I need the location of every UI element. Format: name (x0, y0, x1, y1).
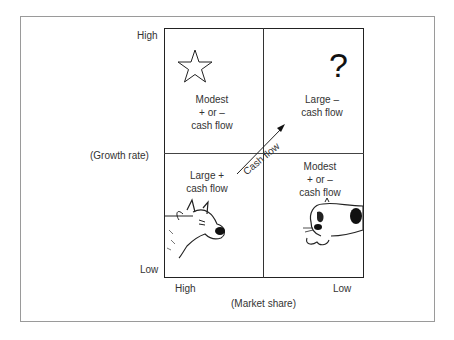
cash-flow-arrow-icon (0, 0, 454, 340)
dog-icon (301, 200, 364, 252)
cow-icon (165, 200, 235, 262)
